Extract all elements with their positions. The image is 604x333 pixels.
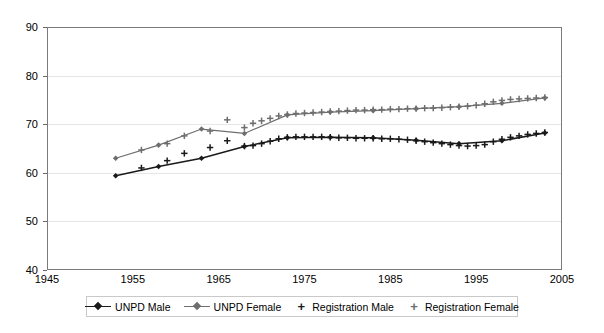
plus-marker	[301, 110, 307, 116]
plus-marker	[439, 104, 445, 110]
plus-marker	[258, 140, 264, 146]
legend-label: Registration Male	[312, 301, 394, 313]
series-line	[116, 98, 545, 158]
plus-marker	[387, 106, 393, 112]
plus-marker	[361, 135, 367, 141]
plus-marker	[344, 135, 350, 141]
plus-marker	[284, 111, 290, 117]
legend-plus-icon: +	[294, 301, 308, 313]
plus-marker	[396, 106, 402, 112]
series-unpd-female	[113, 95, 548, 161]
diamond-marker	[156, 142, 162, 148]
plus-marker	[267, 138, 273, 144]
plus-marker	[181, 150, 187, 156]
plus-marker	[456, 104, 462, 110]
plus-marker	[379, 136, 385, 142]
plus-marker	[464, 103, 470, 109]
plus-marker	[327, 108, 333, 114]
plus-marker	[310, 109, 316, 115]
plus-icon: +	[407, 301, 421, 313]
diamond-marker	[113, 155, 119, 161]
legend-label: UNPD Male	[115, 301, 170, 313]
plus-marker	[250, 142, 256, 148]
plus-marker	[293, 110, 299, 116]
plus-marker	[241, 124, 247, 130]
plus-marker	[181, 133, 187, 139]
plus-marker	[327, 134, 333, 140]
diamond-marker	[156, 164, 162, 170]
plus-marker	[542, 129, 548, 135]
plus-marker	[490, 138, 496, 144]
legend-label: Registration Female	[425, 301, 519, 313]
diamond-marker	[113, 173, 119, 179]
plus-marker	[336, 135, 342, 141]
plus-marker	[310, 134, 316, 140]
plus-marker	[447, 104, 453, 110]
legend-item[interactable]: UNPD Male	[85, 301, 170, 313]
plus-marker	[344, 107, 350, 113]
plus-marker	[267, 115, 273, 121]
plus-marker	[396, 136, 402, 142]
plus-marker	[276, 136, 282, 142]
plus-marker	[413, 105, 419, 111]
plus-marker	[370, 106, 376, 112]
data-series-layer	[0, 0, 604, 333]
plus-marker	[258, 118, 264, 124]
legend-line-diamond-icon	[184, 301, 210, 313]
plus-marker	[293, 134, 299, 140]
chart-legend: UNPD MaleUNPD Female+Registration Male+R…	[86, 296, 518, 317]
chart-container: 405060708090 194519551965197519851995200…	[0, 0, 604, 333]
legend-line-diamond-icon	[85, 301, 111, 313]
plus-marker	[353, 135, 359, 141]
plus-marker	[473, 102, 479, 108]
plus-marker	[138, 147, 144, 153]
plus-marker	[430, 139, 436, 145]
plus-marker	[353, 107, 359, 113]
legend-plus-icon: +	[407, 301, 421, 313]
series-registration-male	[138, 129, 548, 171]
plus-marker	[318, 134, 324, 140]
diamond-marker	[199, 155, 205, 161]
plus-marker	[207, 128, 213, 134]
plus-marker	[379, 106, 385, 112]
legend-label: UNPD Female	[214, 301, 282, 313]
plus-marker	[533, 130, 539, 136]
plus-marker	[413, 138, 419, 144]
diamond-marker	[199, 126, 205, 132]
plus-marker	[430, 105, 436, 111]
plus-marker	[370, 135, 376, 141]
plus-marker	[284, 134, 290, 140]
plus-marker	[224, 138, 230, 144]
plus-marker	[301, 134, 307, 140]
plus-marker	[241, 143, 247, 149]
diamond-marker	[242, 131, 248, 137]
plus-marker	[207, 144, 213, 150]
plus-marker	[421, 105, 427, 111]
plus-marker	[404, 137, 410, 143]
plus-marker	[533, 95, 539, 101]
plus-marker	[250, 120, 256, 126]
legend-item[interactable]: +Registration Female	[407, 301, 519, 313]
plus-marker	[542, 94, 548, 100]
plus-marker	[387, 136, 393, 142]
plus-marker	[164, 157, 170, 163]
plus-marker	[318, 109, 324, 115]
plus-marker	[482, 101, 488, 107]
plus-marker	[336, 108, 342, 114]
legend-item[interactable]: UNPD Female	[184, 301, 282, 313]
legend-item[interactable]: +Registration Male	[294, 301, 394, 313]
plus-marker	[421, 138, 427, 144]
plus-marker	[224, 117, 230, 123]
plus-marker	[361, 107, 367, 113]
plus-icon: +	[294, 301, 308, 313]
plus-marker	[404, 105, 410, 111]
